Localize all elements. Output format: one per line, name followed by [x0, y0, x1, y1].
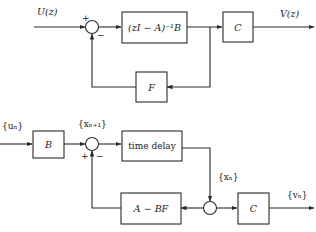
plus-sign: +	[82, 13, 90, 23]
input-block-b-label: B	[44, 139, 52, 150]
input-label-uz: U(z)	[37, 6, 58, 17]
time-delay-label: time delay	[128, 141, 177, 151]
input-label-un: {uₙ}	[2, 121, 23, 131]
output-label-vn: {vₙ}	[287, 190, 307, 200]
branch-junction	[204, 202, 217, 215]
output-label-vz: V(z)	[280, 8, 300, 19]
state-label-xn: {xₙ}	[218, 172, 238, 182]
state-next-label: {xₙ₊₁}	[78, 119, 107, 129]
block-diagram: U(z) + − (zI − A)⁻¹B C V(z) F {uₙ} B {xₙ…	[0, 0, 316, 232]
plant-block-label: (zI − A)⁻¹B	[128, 22, 181, 33]
output-block-c-label: C	[234, 22, 242, 33]
bottom-diagram: {uₙ} B {xₙ₊₁} + − time delay {xₙ} A − BF…	[0, 119, 314, 224]
feedback-block-f-label: F	[147, 82, 155, 93]
top-diagram: U(z) + − (zI − A)⁻¹B C V(z) F	[34, 6, 314, 102]
minus-sign: −	[97, 30, 105, 40]
summing-junction	[86, 138, 99, 151]
feedback-block-a-bf-label: A − BF	[133, 203, 169, 214]
minus-sign: −	[96, 151, 104, 161]
delay-to-junction-arrow	[182, 148, 210, 201]
output-block-c-label: C	[250, 203, 258, 214]
plus-sign: +	[81, 151, 89, 161]
